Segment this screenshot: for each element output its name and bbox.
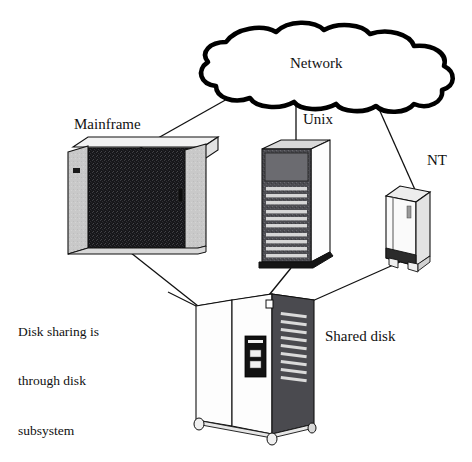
caption-line-2: through disk [18, 373, 99, 389]
caption-line-1: Disk sharing is [18, 324, 99, 340]
mainframe-left-door [68, 146, 88, 254]
caption-line-3: subsystem [18, 423, 99, 439]
mainframe-top [73, 137, 218, 147]
mainframe-door-handle[interactable] [178, 188, 183, 202]
shared-disk-label: Shared disk [325, 328, 395, 346]
shared-disk-subsystem [194, 294, 316, 445]
network-label: Network [290, 55, 343, 73]
shared-disk-caster-left [194, 418, 204, 430]
nt-drive-slot[interactable] [407, 206, 411, 218]
nt-server [386, 186, 430, 272]
shared-disk-caster-right [308, 423, 316, 433]
nt-side-panel [416, 192, 430, 266]
diagram-canvas: Network Mainframe Unix NT Shared disk Di… [0, 0, 472, 462]
unix-upper-bay [265, 153, 308, 181]
mainframe-right-door [185, 144, 206, 252]
control-panel-display [248, 340, 263, 343]
mainframe-label: Mainframe [74, 116, 141, 134]
mainframe-computer [68, 137, 218, 254]
link-nt-shareddisk [310, 262, 400, 302]
nt-label: NT [427, 152, 447, 170]
shared-disk-caster-middle [267, 433, 277, 445]
nt-foot-right [408, 262, 418, 272]
shared-disk-left-door [196, 300, 232, 426]
shared-disk-control-panel[interactable] [245, 336, 266, 377]
unix-server [259, 140, 333, 268]
unix-side-panel [311, 140, 330, 262]
control-panel-button-top[interactable] [250, 350, 261, 357]
control-panel-button-bottom[interactable] [250, 361, 261, 368]
shared-disk-indicator-light [266, 300, 273, 308]
unix-label: Unix [303, 111, 333, 129]
disk-sharing-caption: Disk sharing is through disk subsystem [18, 291, 99, 462]
mainframe-power-button[interactable] [73, 168, 80, 173]
